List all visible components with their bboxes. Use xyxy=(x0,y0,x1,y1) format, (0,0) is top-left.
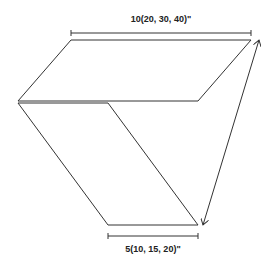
lower-panel xyxy=(18,103,198,225)
bottom-dimension-line xyxy=(108,233,198,239)
panel-diagram xyxy=(0,0,276,259)
top-panel xyxy=(18,40,251,101)
top-dimension-label: 10(20, 30, 40)" xyxy=(131,14,191,24)
diagonal-arrow xyxy=(203,40,259,225)
top-dimension-line xyxy=(71,30,251,36)
bottom-dimension-label: 5(10, 15, 20)" xyxy=(125,244,180,254)
